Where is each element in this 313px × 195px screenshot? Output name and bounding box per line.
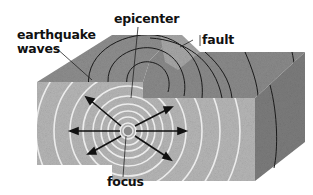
earthquake-diagram: earthquake waves epicenter fault focus: [0, 0, 313, 195]
label-earthquake-waves-line2: waves: [17, 42, 96, 56]
label-focus: focus: [107, 175, 144, 189]
label-fault: fault: [202, 33, 234, 47]
label-earthquake-waves-line1: earthquake: [17, 28, 96, 42]
label-earthquake-waves: earthquake waves: [17, 28, 96, 56]
label-epicenter: epicenter: [114, 12, 179, 26]
focus-point: [123, 126, 133, 136]
